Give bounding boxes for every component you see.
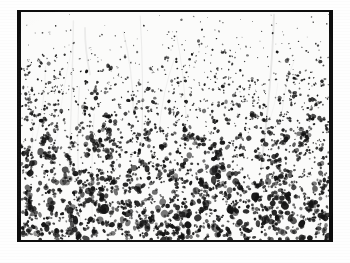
- micrograph-field: [21, 12, 329, 240]
- figure-page: Black and white scanned micrograph showi…: [0, 0, 350, 263]
- speck-field: [21, 12, 329, 240]
- photographic-plate: [17, 10, 333, 242]
